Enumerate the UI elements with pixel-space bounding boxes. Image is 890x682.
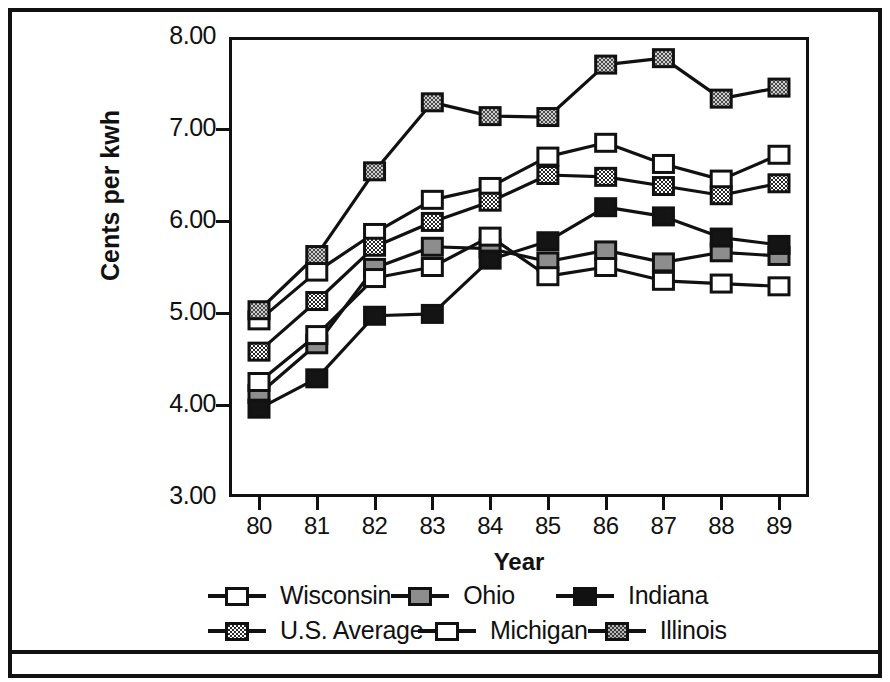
- legend-item-label: Illinois: [660, 616, 727, 645]
- x-tick-label: 82: [350, 512, 400, 540]
- x-tick-label: 84: [465, 512, 515, 540]
- legend-item-wisconsin[interactable]: Wisconsin: [208, 581, 391, 610]
- x-tick-mark: [547, 497, 550, 510]
- data-point-marker: [653, 50, 673, 67]
- data-point-marker: [249, 374, 269, 391]
- data-point-marker: [538, 148, 558, 165]
- data-point-marker: [307, 263, 327, 280]
- y-tick-label: 6.00: [104, 205, 216, 234]
- data-point-marker: [365, 270, 385, 287]
- data-point-marker: [307, 370, 327, 387]
- data-point-marker: [596, 199, 616, 216]
- data-point-marker: [538, 233, 558, 250]
- data-point-marker: [307, 327, 327, 344]
- data-point-marker: [480, 228, 500, 245]
- data-point-marker: [711, 90, 731, 107]
- legend-item-label: Indiana: [628, 581, 708, 610]
- data-point-marker: [480, 108, 500, 125]
- y-tick-label: 3.00: [104, 481, 216, 510]
- data-point-marker: [653, 178, 673, 195]
- data-point-marker: [422, 305, 442, 322]
- data-point-marker: [307, 293, 327, 310]
- data-point-marker: [653, 254, 673, 271]
- x-tick-mark: [374, 497, 377, 510]
- legend-item-indiana[interactable]: Indiana: [556, 581, 708, 610]
- x-tick-mark: [778, 497, 781, 510]
- x-tick-label: 85: [523, 512, 573, 540]
- data-point-marker: [422, 259, 442, 276]
- y-tick-label: 8.00: [104, 21, 216, 50]
- page-border-bottom: [8, 674, 882, 678]
- legend-item-ohio[interactable]: Ohio: [391, 581, 556, 610]
- legend-row: U.S. AverageMichiganIllinois: [208, 613, 708, 648]
- legend-separator: [8, 650, 882, 654]
- data-point-marker: [596, 134, 616, 151]
- data-point-marker: [769, 278, 789, 295]
- line-chart-plot: [229, 37, 809, 497]
- x-tick-label: 83: [407, 512, 457, 540]
- data-point-marker: [769, 146, 789, 163]
- y-tick-label: 4.00: [104, 389, 216, 418]
- legend-marker-icon: [556, 583, 614, 609]
- data-point-marker: [653, 155, 673, 172]
- data-point-marker: [769, 175, 789, 192]
- y-tick-label: 7.00: [104, 113, 216, 142]
- data-point-marker: [538, 268, 558, 285]
- x-tick-mark: [316, 497, 319, 510]
- data-point-marker: [769, 79, 789, 96]
- page-border-right: [878, 8, 882, 674]
- data-point-marker: [249, 400, 269, 417]
- legend-item-u-s-average[interactable]: U.S. Average: [208, 616, 418, 645]
- x-tick-mark: [431, 497, 434, 510]
- series-line: [259, 207, 779, 408]
- data-point-marker: [653, 208, 673, 225]
- legend-item-label: Michigan: [490, 616, 588, 645]
- legend-item-label: U.S. Average: [280, 616, 423, 645]
- data-point-marker: [538, 167, 558, 184]
- x-tick-label: 86: [581, 512, 631, 540]
- data-point-marker: [711, 187, 731, 204]
- data-point-marker: [365, 238, 385, 255]
- data-point-marker: [249, 302, 269, 319]
- x-tick-mark: [605, 497, 608, 510]
- legend-marker-icon: [418, 618, 476, 644]
- x-tick-mark: [489, 497, 492, 510]
- data-point-marker: [538, 109, 558, 126]
- data-point-marker: [422, 94, 442, 111]
- data-point-marker: [596, 168, 616, 185]
- legend-marker-icon: [588, 618, 646, 644]
- data-point-marker: [769, 236, 789, 253]
- legend-item-label: Ohio: [463, 581, 515, 610]
- chart-page: Cents per kwh Year 8.007.006.005.004.003…: [0, 0, 890, 682]
- data-point-marker: [711, 275, 731, 292]
- data-point-marker: [422, 213, 442, 230]
- chart-legend: WisconsinOhioIndianaU.S. AverageMichigan…: [208, 578, 708, 648]
- data-point-marker: [711, 229, 731, 246]
- x-tick-label: 80: [234, 512, 284, 540]
- data-point-marker: [596, 242, 616, 259]
- x-tick-mark: [662, 497, 665, 510]
- legend-item-label: Wisconsin: [280, 581, 391, 610]
- data-point-marker: [653, 272, 673, 289]
- legend-item-illinois[interactable]: Illinois: [588, 616, 727, 645]
- legend-marker-icon: [391, 583, 449, 609]
- series-line: [259, 58, 779, 310]
- legend-row: WisconsinOhioIndiana: [208, 578, 708, 613]
- legend-marker-icon: [208, 618, 266, 644]
- data-point-marker: [249, 343, 269, 360]
- x-axis-title: Year: [429, 548, 609, 576]
- data-point-marker: [365, 307, 385, 324]
- x-tick-label: 88: [696, 512, 746, 540]
- legend-item-michigan[interactable]: Michigan: [418, 616, 588, 645]
- x-tick-mark: [258, 497, 261, 510]
- x-tick-label: 87: [638, 512, 688, 540]
- y-tick-label: 5.00: [104, 297, 216, 326]
- data-point-marker: [480, 251, 500, 268]
- x-tick-label: 89: [754, 512, 804, 540]
- data-point-marker: [596, 259, 616, 276]
- data-point-marker: [480, 193, 500, 210]
- data-point-marker: [422, 191, 442, 208]
- legend-marker-icon: [208, 583, 266, 609]
- data-point-marker: [365, 163, 385, 180]
- series-line: [259, 175, 779, 352]
